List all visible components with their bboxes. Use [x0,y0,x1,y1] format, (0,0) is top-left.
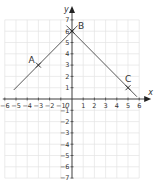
point-label: C [125,74,131,84]
x-tick-label: 2 [92,102,96,110]
y-tick-label: 1 [65,84,69,92]
y-tick-label: −2 [60,118,70,126]
y-tick-label: −5 [60,152,70,160]
y-tick-label: −3 [60,129,70,137]
y-tick-label: −1 [60,107,70,115]
point-label: A [28,55,35,65]
x-tick-label: 3 [104,102,108,110]
x-tick-label: −3 [34,102,44,110]
y-tick-label: 4 [65,50,69,58]
x-tick-label: 4 [115,102,119,110]
x-tick-label: 5 [126,102,130,110]
y-tick-label: 5 [65,39,69,47]
y-arrow-icon [69,6,75,13]
y-tick-label: −7 [60,174,70,180]
y-axis-label: y [63,5,69,14]
x-axis-label: x [147,88,153,97]
y-tick-label: −4 [60,141,70,149]
y-tick-label: 3 [65,61,69,69]
x-tick-label: −4 [22,102,32,110]
y-tick-label: 7 [65,16,69,24]
y-tick-label: −6 [60,163,70,171]
x-tick-label: −5 [11,102,21,110]
x-tick-label: 1 [81,102,85,110]
x-tick-label: −6 [0,102,10,110]
point-label: B [78,21,84,31]
y-tick-label: 2 [65,73,69,81]
x-tick-label: 6 [137,102,141,110]
x-tick-label: −2 [45,102,55,110]
coordinate-grid: xy0 −6−5−4−3−2−11234567654321−1−2−3−4−5−… [0,0,154,180]
